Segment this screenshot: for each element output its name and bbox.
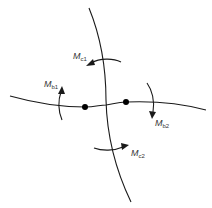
joint-right: [123, 99, 129, 105]
frame-joint-diagram: Mc1 Mb1 Mb2 Mc2: [0, 0, 212, 208]
label-mc2: Mc2: [131, 148, 146, 159]
label-mb2: Mb2: [155, 118, 170, 129]
joint-left: [82, 104, 88, 110]
column-member: [89, 8, 131, 202]
beam-member: [10, 96, 206, 110]
moment-arrow-mb1-icon: [58, 86, 65, 120]
label-mb1: Mb1: [44, 79, 59, 90]
label-mc1: Mc1: [73, 51, 88, 62]
moment-arrow-mb2-icon: [147, 83, 156, 119]
